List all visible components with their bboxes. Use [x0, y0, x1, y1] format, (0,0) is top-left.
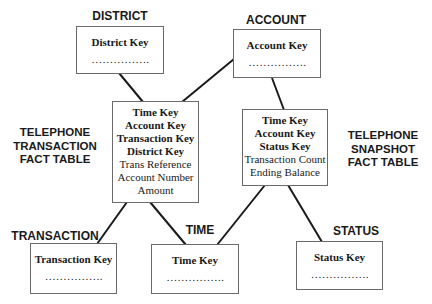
district-ellipsis: ……………. — [77, 54, 163, 65]
snapshot-fact-box: Time Key Account Key Status Key Transact… — [242, 109, 328, 186]
star-schema-diagram: DISTRICT District Key ……………. ACCOUNT Acc… — [0, 0, 432, 304]
status-ellipsis: ……………. — [297, 269, 382, 280]
transaction-fact-label-line-3: FACT TABLE — [5, 153, 105, 167]
snapshot-field-time-key: Time Key — [243, 114, 327, 127]
time-ellipsis: ……………. — [152, 272, 238, 283]
transaction-fact-label-line-1: TELEPHONE — [5, 126, 105, 140]
account-title: ACCOUNT — [236, 13, 316, 27]
district-dimension-box: District Key ……………. — [76, 26, 164, 74]
status-dimension-box: Status Key ……………. — [296, 241, 383, 290]
account-key-field: Account Key — [234, 39, 320, 52]
transaction-fact-label-line-2: TRANSACTION — [5, 140, 105, 154]
transaction-fact-label: TELEPHONE TRANSACTION FACT TABLE — [5, 126, 105, 167]
status-title: STATUS — [328, 224, 384, 238]
status-key-field: Status Key — [297, 251, 382, 264]
fact-field-amount: Amount — [113, 184, 198, 197]
line-account-to-transaction-fact — [182, 59, 234, 102]
snapshot-fact-label-line-1: TELEPHONE — [335, 129, 431, 143]
snapshot-fact-label-line-3: FACT TABLE — [335, 156, 431, 170]
transaction-key-field: Transaction Key — [31, 253, 116, 266]
time-key-field: Time Key — [152, 254, 238, 267]
fact-field-trans-reference: Trans Reference — [113, 158, 198, 171]
time-title: TIME — [180, 223, 220, 237]
transaction-fact-box: Time Key Account Key Transaction Key Dis… — [112, 101, 199, 203]
fact-field-account-key: Account Key — [113, 119, 198, 132]
snapshot-fact-label: TELEPHONE SNAPSHOT FACT TABLE — [335, 129, 431, 170]
snapshot-fact-label-line-2: SNAPSHOT — [335, 143, 431, 157]
account-ellipsis: ……………. — [234, 57, 320, 68]
line-district-to-transaction-fact — [119, 73, 143, 102]
fact-field-district-key: District Key — [113, 145, 198, 158]
time-dimension-box: Time Key ……………. — [151, 244, 239, 294]
fact-field-time-key: Time Key — [113, 106, 198, 119]
line-transaction-fact-to-transaction — [97, 202, 127, 244]
snapshot-field-status-key: Status Key — [243, 140, 327, 153]
snapshot-field-ending-balance: Ending Balance — [243, 166, 327, 179]
line-snapshot-fact-to-status — [288, 185, 322, 242]
snapshot-field-account-key: Account Key — [243, 127, 327, 140]
fact-field-account-number: Account Number — [113, 171, 198, 184]
snapshot-field-transaction-count: Transaction Count — [243, 153, 327, 166]
transaction-ellipsis: ……………. — [31, 271, 116, 282]
account-dimension-box: Account Key ……………. — [233, 29, 321, 78]
transaction-dimension-box: Transaction Key ……………. — [30, 243, 117, 294]
transaction-title: TRANSACTION — [10, 229, 100, 243]
fact-field-transaction-key: Transaction Key — [113, 132, 198, 145]
district-title: DISTRICT — [80, 9, 160, 23]
line-account-to-snapshot-fact — [272, 78, 284, 110]
line-snapshot-fact-to-time — [217, 185, 265, 245]
district-key-field: District Key — [77, 36, 163, 49]
